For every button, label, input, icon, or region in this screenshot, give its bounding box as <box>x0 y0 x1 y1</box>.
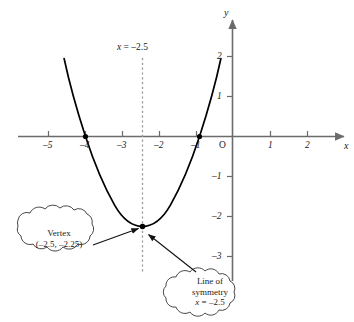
y-tick-label--1: –1 <box>212 172 222 182</box>
y-tick-label-2: 2 <box>217 52 222 62</box>
x-tick-label--4: –4 <box>80 141 90 151</box>
x-tick-label--3: –3 <box>117 141 127 151</box>
point-root-right <box>197 134 202 139</box>
x-axis-label: x <box>344 141 348 151</box>
vertex-callout-line2: (–2.5, –2.25) <box>13 239 105 250</box>
point-root-left <box>83 134 88 139</box>
x-tick-label-2: 2 <box>305 141 310 151</box>
y-tick-label--3: –3 <box>212 252 222 262</box>
y-tick-label-1: 1 <box>217 92 222 102</box>
symmetry-callout-value: = –2.5 <box>199 297 224 307</box>
symmetry-callout-line2: symmetry <box>167 287 253 298</box>
graph-figure: –5 –4 –3 –2 –1 1 2 O 2 1 –1 –2 –3 x y x … <box>0 0 354 322</box>
point-vertex <box>140 224 146 230</box>
x-tick-label--2: –2 <box>154 141 164 151</box>
symmetry-callout-line3: x = –2.5 <box>167 297 253 308</box>
parabola-plot <box>0 0 354 322</box>
y-axis-label: y <box>224 8 228 18</box>
y-tick-label--2: –2 <box>212 212 222 222</box>
symmetry-callout-arrow <box>149 235 197 273</box>
x-tick-label--1: –1 <box>191 141 201 151</box>
symmetry-line-label-value: = –2.5 <box>121 42 148 52</box>
symmetry-callout-text: Line of symmetry x = –2.5 <box>167 276 253 308</box>
symmetry-callout-line1: Line of <box>167 276 253 287</box>
x-tick-label--5: –5 <box>43 141 53 151</box>
vertex-callout-text: Vertex (–2.5, –2.25) <box>13 228 105 249</box>
y-axis-ticks <box>227 57 233 257</box>
origin-label: O <box>219 141 226 151</box>
x-tick-label-1: 1 <box>268 141 273 151</box>
symmetry-line-label: x = –2.5 <box>117 43 148 53</box>
vertex-callout-line1: Vertex <box>13 228 105 239</box>
